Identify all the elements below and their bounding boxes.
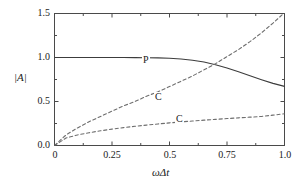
xtick-label-1: 0.25: [97, 150, 127, 160]
xtick-label-2: 0.5: [155, 150, 185, 160]
y-axis-label: |A|: [14, 72, 27, 83]
ytick-label-1: 0.5: [26, 96, 50, 106]
curve-label-p: P: [142, 55, 150, 65]
data-curves: [55, 13, 285, 146]
xtick-label-0: 0: [40, 150, 70, 160]
series-line-p: [55, 58, 285, 87]
xtick-label-4: 1.0: [270, 150, 300, 160]
axis-ticks: [55, 14, 285, 146]
axes-frame: [55, 14, 285, 146]
ytick-label-3: 1.5: [26, 8, 50, 18]
series-line-c-lower: [55, 114, 285, 146]
chart-figure: 1.5 1.0 0.5 0.0 0 0.25 0.5 0.75 1.0 |A| …: [0, 0, 301, 188]
ytick-label-0: 0.0: [26, 140, 50, 150]
series-line-c-upper: [55, 13, 285, 146]
ytick-label-2: 1.0: [26, 52, 50, 62]
curve-label-c-upper: C: [154, 92, 163, 102]
xtick-label-3: 0.75: [212, 150, 242, 160]
x-axis-label: ωΔt: [152, 167, 169, 178]
curve-label-c-lower: C: [175, 114, 184, 124]
